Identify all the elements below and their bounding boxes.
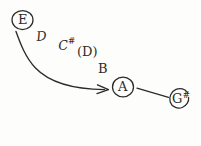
- note-label-a: A: [118, 80, 127, 93]
- note-label-e: E: [18, 13, 28, 26]
- note-letter-g: G: [172, 91, 182, 106]
- note-letter-d-first: D: [36, 28, 48, 44]
- sharp-sign-c: #: [67, 35, 75, 46]
- note-label-c-sharp: C#: [58, 36, 76, 52]
- note-label-g-sharp: G#: [172, 91, 189, 105]
- connector-a-gsharp-stroke: [137, 88, 169, 97]
- note-label-d-first: D: [36, 29, 48, 43]
- note-letter-d-parenthetical: (D): [77, 44, 98, 59]
- sharp-sign-g: #: [182, 90, 189, 100]
- sketch-canvas: E D C# (D) B A G#: [0, 0, 201, 146]
- note-label-d-parenthetical: (D): [77, 45, 98, 58]
- note-letter-e: E: [18, 12, 28, 27]
- note-letter-a: A: [118, 79, 127, 94]
- note-letter-b: B: [98, 61, 108, 76]
- note-label-b: B: [98, 62, 108, 75]
